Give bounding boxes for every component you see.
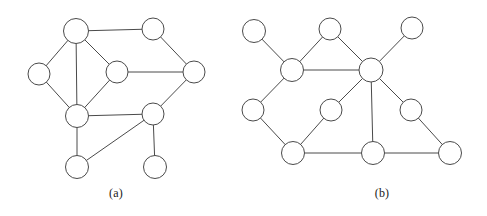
panel-caption-a: (a) (86, 186, 146, 201)
graph-edge (46, 82, 69, 107)
graph-edge (161, 37, 187, 64)
graph-node-b2 (319, 18, 341, 40)
graph-edge (339, 78, 363, 102)
figure-root: (a) (b) (0, 0, 487, 216)
graph-node-a1 (64, 19, 89, 44)
graph-node-b7 (320, 99, 342, 121)
graph-edge (338, 37, 363, 62)
graph-edge (161, 80, 187, 106)
graph-edge (76, 44, 77, 105)
graph-edge (153, 125, 154, 156)
graph-node-b8 (400, 99, 422, 121)
graph-node-a8 (66, 156, 89, 179)
edge-group-b (260, 36, 442, 153)
graph-edge (46, 40, 68, 65)
graph-edge (371, 82, 372, 142)
graph-edge (262, 39, 284, 62)
graph-edge (261, 78, 284, 102)
node-group-b (242, 17, 462, 165)
graph-node-b10 (362, 142, 385, 165)
graph-node-a3 (28, 63, 50, 85)
panel-caption-b: (b) (352, 186, 412, 201)
graph-node-b3 (401, 17, 423, 39)
graph-edge (379, 36, 404, 62)
graph-node-b9 (282, 142, 305, 165)
graph-edge (85, 40, 109, 64)
edge-group-a (46, 29, 186, 160)
node-group-a (28, 18, 205, 179)
graph-diagram-canvas (0, 0, 487, 216)
graph-edge (418, 118, 442, 144)
graph-edge (301, 118, 324, 144)
graph-node-b11 (439, 142, 462, 165)
graph-edge (89, 29, 143, 30)
graph-edge (260, 118, 285, 145)
graph-node-a6 (66, 105, 89, 128)
graph-edge (86, 120, 144, 160)
graph-node-a4 (106, 61, 128, 83)
graph-node-b4 (281, 59, 304, 82)
graph-node-b6 (242, 99, 264, 121)
graph-node-a7 (142, 103, 164, 125)
graph-node-a2 (142, 18, 164, 40)
graph-edge (85, 80, 110, 107)
graph-node-a5 (183, 61, 205, 83)
graph-edge (300, 37, 323, 62)
graph-node-a9 (144, 156, 167, 179)
graph-edge (379, 78, 403, 102)
graph-node-b5 (359, 58, 383, 82)
graph-node-b1 (243, 20, 266, 43)
graph-edge (89, 114, 143, 115)
